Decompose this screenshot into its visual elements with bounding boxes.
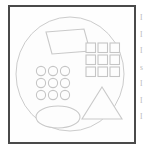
margin-text-line: I: [140, 43, 152, 60]
parallelogram-shape: [46, 29, 90, 54]
margin-text-line: I: [140, 10, 152, 27]
margin-text-line: I: [140, 76, 152, 93]
margin-text-fragments: I I I s I I I: [140, 10, 152, 142]
page-root: I I I s I I I: [0, 0, 152, 150]
margin-text-line: I: [140, 109, 152, 126]
circle-grid-shape: [36, 66, 69, 99]
ellipse-shape: [36, 106, 80, 128]
geometric-shapes-figure: [10, 7, 134, 142]
margin-text-line: I: [140, 93, 152, 110]
square-grid-shape: [86, 43, 120, 77]
margin-text-line: I: [140, 27, 152, 44]
figure-frame: [8, 5, 136, 144]
margin-text-line: s: [140, 60, 152, 77]
